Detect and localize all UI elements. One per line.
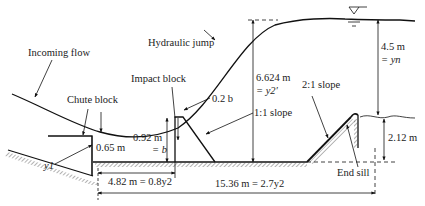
slope-2-1-leader <box>312 96 328 138</box>
slope-1-1-leader <box>206 113 253 134</box>
tailwater-depth-label: 4.5 m <box>381 41 405 52</box>
slope-1-1-label: 1:1 slope <box>254 107 293 118</box>
impact-block-height-label: 0.92 m <box>133 132 162 143</box>
chute-block-leader <box>83 109 88 135</box>
incoming-flow-leader <box>35 60 52 97</box>
incoming-flow-label: Incoming flow <box>28 47 91 58</box>
end-sill-back-hatch <box>354 119 358 148</box>
end-sill-top <box>351 114 358 117</box>
downstream-surface <box>360 116 415 118</box>
end-sill-label: End sill <box>337 167 369 178</box>
end-sill-slope <box>307 117 351 162</box>
channel-structure <box>5 114 358 185</box>
impact-block <box>175 117 215 162</box>
impact-block-height-eq: = b <box>152 144 167 155</box>
water-surface <box>12 7 415 137</box>
hydraulic-jump-label: Hydraulic jump <box>148 37 214 48</box>
tailwater-depth-eq: = yn <box>381 54 401 65</box>
slope-2-1-label: 2:1 slope <box>302 79 341 90</box>
y1-label: y1 <box>43 160 54 171</box>
end-sill-height-label: 2.12 m <box>388 132 417 143</box>
impact-block-distance-label: 4.82 m = 0.8y2 <box>108 176 172 187</box>
impact-block-leader <box>172 87 175 118</box>
chute-block-height-label: 0.65 m <box>96 142 125 153</box>
top-width-leader <box>184 98 210 110</box>
y1-leader <box>55 145 92 164</box>
end-sill-hatch <box>309 119 356 164</box>
stilling-basin-diagram: Incoming flow Hydraulic jump Chute block… <box>0 0 425 206</box>
basin-length-label: 15.36 m = 2.7y2 <box>215 178 284 189</box>
water-level-icon <box>348 7 367 26</box>
impact-block-label: Impact block <box>131 73 187 84</box>
sequent-depth-eq: = y2′ <box>256 85 279 96</box>
basin-floor-hatch <box>95 163 307 167</box>
chute-block-label: Chute block <box>67 94 119 105</box>
sequent-depth-label: 6.624 m <box>256 72 290 83</box>
top-width-label: 0.2 b <box>212 93 233 104</box>
